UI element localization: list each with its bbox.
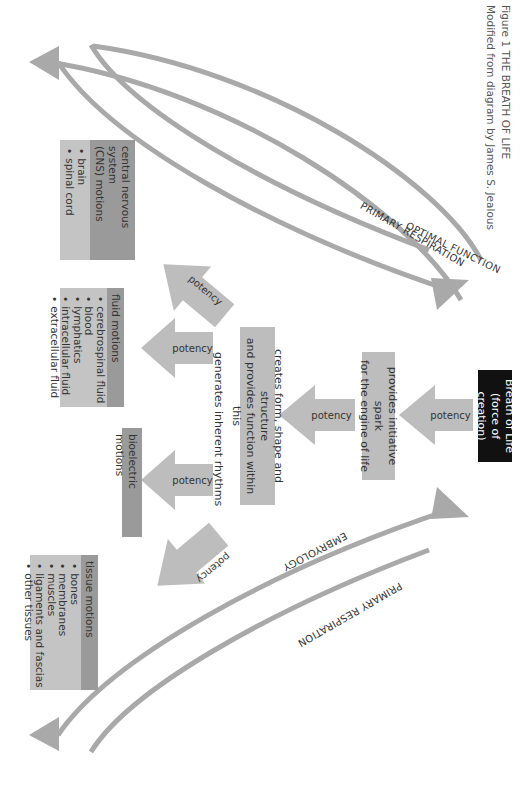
list-item: cerebrospinal fluid [95, 296, 107, 401]
form-box: creates form, shape and structure and pr… [240, 327, 275, 505]
breath-of-life-line2: (force of creation) [474, 374, 502, 458]
card-bioelectric-title: bioelectric motions [122, 428, 142, 537]
spark-line2: for the engine of life [358, 352, 372, 480]
potency-label-4: potency [173, 343, 213, 354]
form-line2: and provides function within this [230, 327, 258, 505]
list-item: muscles [46, 563, 58, 684]
potency-label-2: potency [312, 410, 352, 421]
card-tissue-title: tissue motions [81, 555, 98, 690]
list-item: spinal cord [64, 148, 76, 254]
list-item: lymphatics [72, 296, 84, 401]
card-tissue-list: bones membranes muscles ligaments and fa… [19, 555, 82, 690]
list-item: brain [76, 148, 88, 254]
card-tissue-motions: tissue motions bones membranes muscles l… [30, 555, 98, 690]
card-cns-motions: central nervous system (CNS) motions bra… [60, 140, 135, 260]
rhythms-label: generates inherent rhythms [212, 352, 225, 506]
card-cns-list: brain spinal cord [60, 140, 90, 260]
list-item: blood [83, 296, 95, 401]
list-item: ligaments and fascias [34, 563, 46, 684]
list-item: intracellular fluid [60, 296, 72, 401]
potency-label-1: potency [431, 410, 471, 421]
card-fluid-title: fluid motions [107, 288, 124, 407]
card-fluid-list: cerebrospinal fluid blood lymphatics int… [45, 288, 108, 407]
potency-label-5: potency [173, 475, 213, 486]
spark-box: provides initiative spark for the engine… [362, 352, 395, 480]
list-item: extracellular fluid [49, 296, 61, 401]
form-line1: creates form, shape and structure [258, 327, 286, 505]
arrowhead-optimal-function-start [29, 46, 59, 80]
breath-of-life-diagram: Figure 1 THE BREATH OF LIFE Modified fro… [0, 0, 529, 797]
card-fluid-motions: fluid motions cerebrospinal fluid blood … [60, 288, 124, 407]
card-bioelectric-motions: bioelectric motions [122, 428, 142, 537]
spark-line1: provides initiative spark [372, 352, 400, 480]
breath-of-life-box: Breath of Life (force of creation) [478, 370, 512, 462]
list-item: other tissues [23, 563, 35, 684]
list-item: membranes [57, 563, 69, 684]
breath-of-life-line1: Breath of Life [502, 374, 516, 458]
list-item: bones [69, 563, 81, 684]
card-cns-title: central nervous system (CNS) motions [90, 140, 135, 260]
